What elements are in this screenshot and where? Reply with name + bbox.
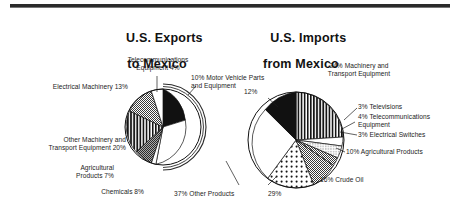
- pie-exports-outer-ring: [163, 84, 206, 170]
- pie-imports-outline: [248, 92, 344, 188]
- pie-imports-slice-telecom: [296, 140, 342, 158]
- label-imports-electrical-switches: 3% Electrical Switches: [358, 131, 455, 139]
- pie-imports-leader-lines: [268, 98, 357, 185]
- label-imports-crude-oil: 16% Crude Oil: [320, 176, 412, 184]
- pie-imports-slice-electrical-switches: [296, 140, 338, 166]
- pie-imports-slice-televisions: [296, 137, 343, 146]
- pie-imports-slice-twelve-percent: [265, 92, 296, 140]
- pie-exports-outer-ring-2: [163, 87, 203, 168]
- label-exports-telecommunications: Telecommunications Equipment 4%: [94, 56, 222, 72]
- pie-imports: [248, 92, 344, 188]
- chart-title-exports-line1: U.S. Exports: [126, 31, 203, 45]
- pie-imports-slice-crude-oil: [268, 140, 314, 188]
- label-imports-agricultural-products: 10% Agricultural Products: [346, 148, 454, 156]
- label-imports-machinery-transport: 24% Machinery and Transport Equipment: [300, 62, 418, 78]
- label-imports-televisions: 3% Televisions: [358, 103, 454, 111]
- label-exports-electrical-machinery: Electrical Machinery 13%: [4, 83, 128, 91]
- pie-imports-slice-machinery: [296, 92, 343, 140]
- label-exports-other-products: 37% Other Products: [174, 190, 266, 198]
- label-imports-twelve-percent: 12%: [244, 88, 278, 96]
- top-divider-rule: [10, 4, 450, 8]
- label-imports-other-products-percent: 29%: [268, 190, 308, 198]
- pie-exports-outline: [125, 89, 201, 165]
- label-exports-agricultural-products: Agricultural Products 7%: [16, 164, 114, 180]
- pie-imports-slice-other-products: [252, 109, 296, 178]
- chart-title-imports-line1: U.S. Imports: [270, 31, 346, 45]
- label-exports-other-machinery: Other Machinery and Transport Equipment …: [0, 136, 126, 152]
- pie-exports-slice-other-products: [156, 120, 186, 164]
- pie-exports-slice-agricultural: [136, 127, 163, 163]
- label-imports-telecommunications: 4% Telecommunications Equipment: [358, 113, 454, 129]
- pie-exports-slice-chemicals: [151, 127, 163, 164]
- pie-exports-slice-electrical-machinery: [129, 91, 163, 127]
- pie-exports: [125, 84, 206, 170]
- label-exports-chemicals: Chemicals 8%: [40, 188, 144, 196]
- figure-canvas: U.S. Exports to Mexico U.S. Imports from…: [0, 0, 455, 221]
- pie-exports-slice-other-machinery: [126, 111, 163, 152]
